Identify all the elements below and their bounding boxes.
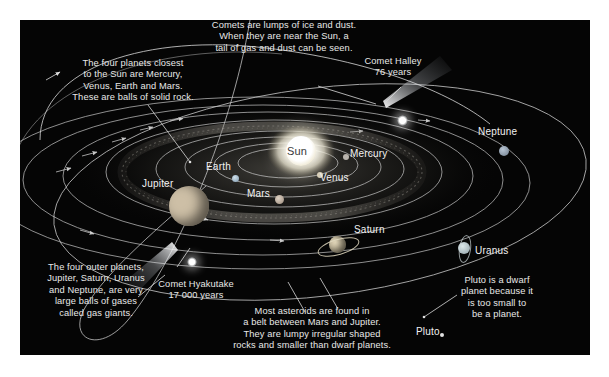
body-neptune: [499, 146, 509, 156]
label-earth: Earth: [206, 161, 231, 172]
label-pluto: Pluto: [416, 326, 440, 337]
comet-hyakutake-note: Comet Hyakutake 17 000 years: [139, 279, 253, 302]
body-mercury: [343, 154, 349, 160]
body-jupiter: [169, 186, 209, 226]
label-jupiter: Jupiter: [142, 178, 173, 189]
label-venus: Venus: [320, 172, 349, 183]
pluto-note: Pluto is a dwarf planet because it is to…: [446, 275, 548, 321]
comet-halley-note: Comet Halley 76 years: [345, 56, 441, 79]
asteroid-belt-note: Most asteroids are found in a belt betwe…: [214, 306, 410, 352]
solar-system-diagram: Sun Mercury Venus Earth Mars Jupiter Sat…: [0, 0, 609, 377]
body-mars: [275, 195, 284, 204]
comets-note: Comets are lumps of ice and dust. When t…: [186, 20, 382, 54]
body-comet-hyakutake: [187, 257, 197, 267]
body-pluto: [440, 333, 444, 337]
label-mars: Mars: [247, 188, 270, 199]
label-neptune: Neptune: [478, 126, 517, 137]
body-comet-halley: [397, 115, 408, 126]
label-mercury: Mercury: [350, 148, 388, 159]
label-sun: Sun: [287, 145, 307, 157]
label-uranus: Uranus: [475, 245, 508, 256]
label-saturn: Saturn: [354, 224, 385, 235]
body-earth: [232, 175, 239, 182]
inner-planets-note: The four planets closest to the Sun are …: [57, 58, 209, 104]
space-canvas: Sun Mercury Venus Earth Mars Jupiter Sat…: [20, 20, 590, 355]
